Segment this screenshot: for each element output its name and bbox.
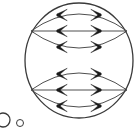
outer-boundary-circle (25, 3, 133, 118)
cross-section-diagram (0, 0, 140, 139)
small-circle-clipped (0, 113, 10, 127)
figure-root (0, 0, 140, 139)
small-circle-dot (17, 120, 24, 127)
